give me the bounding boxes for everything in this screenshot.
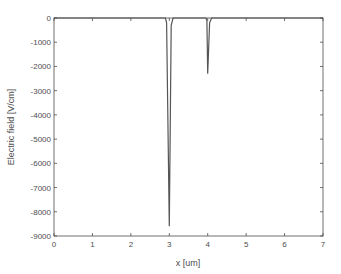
y-axis-label: Electric field [V/cm]: [6, 89, 16, 166]
y-tick-label: 0: [47, 14, 52, 23]
y-tick-label: -2000: [31, 62, 52, 71]
series-line: [54, 18, 323, 226]
plot-frame: [54, 18, 323, 236]
x-tick-label: 7: [321, 240, 326, 249]
x-tick-label: 4: [205, 240, 210, 249]
x-tick-label: 5: [244, 240, 249, 249]
y-tick-label: -8000: [31, 208, 52, 217]
y-tick-label: -9000: [31, 232, 52, 241]
x-tick-label: 0: [52, 240, 57, 249]
y-tick-label: -1000: [31, 38, 52, 47]
y-tick-label: -6000: [31, 159, 52, 168]
y-tick-label: -3000: [31, 87, 52, 96]
electric-field-chart: 01234567 0-1000-2000-3000-4000-5000-6000…: [0, 0, 341, 274]
x-tick-label: 3: [167, 240, 172, 249]
x-axis-ticks: 01234567: [52, 18, 326, 249]
x-tick-label: 1: [90, 240, 95, 249]
data-line: [54, 18, 323, 226]
x-tick-label: 6: [282, 240, 287, 249]
y-tick-label: -7000: [31, 184, 52, 193]
axes-frame: [54, 18, 323, 236]
y-tick-label: -5000: [31, 135, 52, 144]
y-tick-label: -4000: [31, 111, 52, 120]
x-tick-label: 2: [129, 240, 134, 249]
x-axis-label: x [um]: [176, 258, 201, 268]
y-axis-ticks: 0-1000-2000-3000-4000-5000-6000-7000-800…: [31, 14, 323, 241]
